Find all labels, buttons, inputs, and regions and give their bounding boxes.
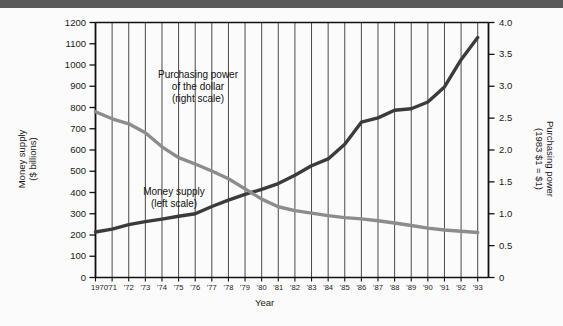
x-axis-title: Year	[255, 297, 274, 308]
y-tick-label-left: 0	[40, 272, 86, 283]
x-tick-label: '93	[469, 283, 487, 292]
y-tick-label-right: 4.0	[499, 17, 539, 28]
y-tick-label-left: 1100	[40, 38, 86, 49]
y-tick-label-left: 900	[40, 80, 86, 91]
x-tick-label: '88	[386, 283, 404, 292]
left-axis-title-line2: ($ billions)	[27, 104, 38, 214]
x-tick-label: '80	[253, 283, 271, 292]
money-annotation-line1: Money supply	[104, 186, 244, 198]
purchasing-annotation-line2: of the dollar	[118, 81, 278, 93]
x-tick-label: '89	[402, 283, 420, 292]
y-tick-label-right: 0	[499, 272, 539, 283]
x-tick-label: '72	[120, 283, 138, 292]
y-tick-label-left: 200	[40, 229, 86, 240]
series-annotation-money-supply: Money supply (left scale)	[104, 186, 244, 210]
y-tick-label-left: 1000	[40, 59, 86, 70]
x-tick-label: '87	[369, 283, 387, 292]
x-tick-label: '82	[286, 283, 304, 292]
x-tick-label: '76	[186, 283, 204, 292]
y-tick-label-left: 1200	[40, 17, 86, 28]
money-annotation-line2: (left scale)	[104, 198, 244, 210]
x-tick-label: '75	[170, 283, 188, 292]
x-tick-label: '84	[319, 283, 337, 292]
y-tick-label-right: 1.5	[499, 176, 539, 187]
x-tick-label: '86	[352, 283, 370, 292]
y-tick-label-left: 100	[40, 250, 86, 261]
y-tick-label-left: 400	[40, 187, 86, 198]
x-tick-label: '90	[419, 283, 437, 292]
left-axis-title-line1: Money supply	[16, 104, 27, 214]
y-tick-label-right: 3.0	[499, 80, 539, 91]
x-tick-label: '77	[203, 283, 221, 292]
y-tick-label-right: 2.5	[499, 112, 539, 123]
x-tick-label: '81	[269, 283, 287, 292]
y-tick-label-left: 700	[40, 123, 86, 134]
x-tick-label: '79	[236, 283, 254, 292]
series-annotation-purchasing-power: Purchasing power of the dollar (right sc…	[118, 69, 278, 105]
x-tick-label: '78	[219, 283, 237, 292]
x-tick-label: '91	[435, 283, 453, 292]
purchasing-annotation-line1: Purchasing power	[118, 69, 278, 81]
y-tick-label-left: 600	[40, 144, 86, 155]
y-tick-label-left: 500	[40, 165, 86, 176]
y-tick-label-right: 1.0	[499, 208, 539, 219]
y-tick-label-right: 0.5	[499, 240, 539, 251]
x-tick-label: '71	[103, 283, 121, 292]
x-tick-label: '73	[136, 283, 154, 292]
y-tick-label-right: 3.5	[499, 48, 539, 59]
left-axis-title: Money supply ($ billions)	[16, 104, 38, 214]
right-axis-title-line1: Purchasing power	[545, 99, 556, 219]
y-tick-label-left: 300	[40, 208, 86, 219]
purchasing-annotation-line3: (right scale)	[118, 93, 278, 105]
series-line-purchasing-power	[96, 112, 478, 233]
y-tick-label-right: 2.0	[499, 144, 539, 155]
chart-figure: Money supply ($ billions) Purchasing pow…	[0, 0, 563, 326]
y-tick-label-left: 800	[40, 102, 86, 113]
x-tick-label: '85	[336, 283, 354, 292]
x-tick-label: '83	[303, 283, 321, 292]
x-tick-label: '74	[153, 283, 171, 292]
x-tick-label: '92	[452, 283, 470, 292]
